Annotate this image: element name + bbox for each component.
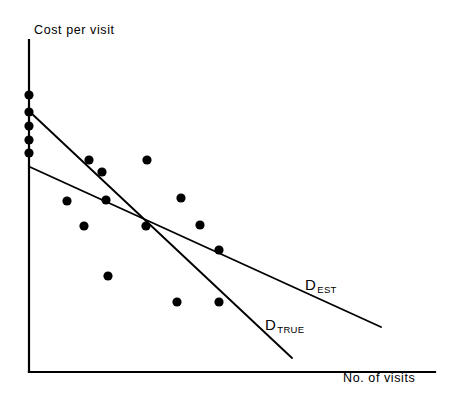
data-point xyxy=(101,195,110,204)
data-point xyxy=(84,155,93,164)
data-point xyxy=(214,297,223,306)
series-label-d-true-main: D xyxy=(265,316,276,333)
y-axis-label: Cost per visit xyxy=(34,23,115,37)
data-point xyxy=(79,221,88,230)
data-point xyxy=(103,271,112,280)
data-point xyxy=(214,245,223,254)
data-point xyxy=(24,107,33,116)
data-point xyxy=(176,193,185,202)
data-point xyxy=(24,135,33,144)
data-point xyxy=(24,148,33,157)
data-point xyxy=(141,221,150,230)
figure-root: Cost per visit No. of visits D EST D TRU… xyxy=(0,0,461,404)
data-point xyxy=(195,220,204,229)
data-point xyxy=(62,196,71,205)
x-axis-label: No. of visits xyxy=(343,371,415,385)
data-point xyxy=(97,167,106,176)
series-label-d-est-main: D xyxy=(305,276,316,293)
scatter-chart: Cost per visit No. of visits D EST D TRU… xyxy=(0,0,461,404)
data-point xyxy=(142,155,151,164)
series-label-d-true-sub: TRUE xyxy=(277,324,304,335)
data-point xyxy=(24,121,33,130)
series-label-d-est-sub: EST xyxy=(317,284,336,295)
data-point xyxy=(172,297,181,306)
data-point xyxy=(24,90,33,99)
